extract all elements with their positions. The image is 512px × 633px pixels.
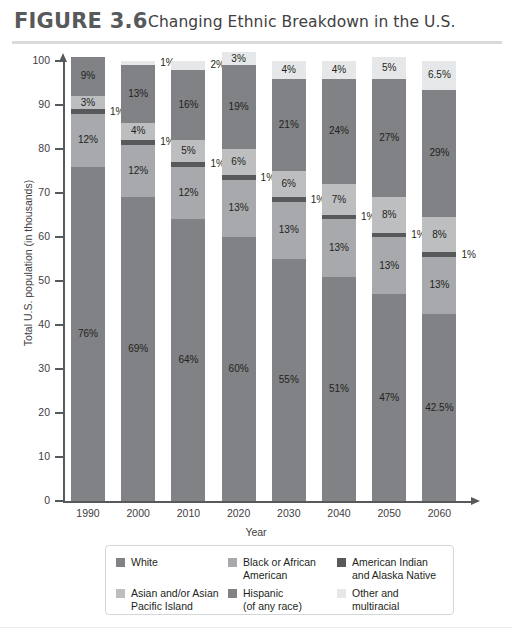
bar-segment-2000-hispanic-of-any-race[interactable]: 13% xyxy=(121,65,155,122)
bar-segment-2000-asian-and-or-asian-pacific-island[interactable]: 4% xyxy=(121,123,155,141)
bar-segment-2060-white[interactable]: 42.5% xyxy=(422,314,456,501)
chart-legend: WhiteBlack or AfricanAmericanAmerican In… xyxy=(105,545,454,615)
bar-segment-2030-other-and-multiracial[interactable]: 4% xyxy=(272,61,306,79)
bar-segment-2020-white[interactable]: 60% xyxy=(222,237,256,501)
bar-segment-2060-black-or-african-american[interactable]: 13% xyxy=(422,257,456,314)
bar-segment-2050-american-indian-and-alaska-native[interactable]: 1% xyxy=(372,233,406,237)
legend-swatch-icon xyxy=(337,558,346,567)
bar-segment-1990-american-indian-and-alaska-native[interactable]: 1% xyxy=(71,109,105,113)
bar-segment-label: 3% xyxy=(71,98,105,108)
stacked-bar-2030[interactable]: 55%13%1%6%21%4% xyxy=(272,45,306,501)
x-axis-tick-label-2040: 2040 xyxy=(311,507,367,519)
stacked-bar-2040[interactable]: 51%13%1%7%24%4% xyxy=(322,45,356,501)
bar-segment-label: 13% xyxy=(121,89,155,99)
bar-segment-label: 9% xyxy=(71,71,105,81)
y-axis-tick xyxy=(55,60,63,62)
bar-segment-label: 29% xyxy=(422,148,456,158)
x-axis-tick-label-1990: 1990 xyxy=(60,507,116,519)
page-bottom-divider xyxy=(0,627,512,628)
bar-segment-2040-hispanic-of-any-race[interactable]: 24% xyxy=(322,79,356,185)
bar-segment-label: 24% xyxy=(322,126,356,136)
bar-segment-2010-black-or-african-american[interactable]: 12% xyxy=(171,167,205,220)
bar-segment-2030-hispanic-of-any-race[interactable]: 21% xyxy=(272,79,306,171)
bar-segment-1990-white[interactable]: 76% xyxy=(71,167,105,501)
bar-segment-2030-black-or-african-american[interactable]: 13% xyxy=(272,202,306,259)
stacked-bar-2000[interactable]: 69%12%1%4%13%1% xyxy=(121,45,155,501)
legend-swatch-icon xyxy=(116,589,125,598)
bar-segment-2040-american-indian-and-alaska-native[interactable]: 1% xyxy=(322,215,356,219)
bar-segment-2050-black-or-african-american[interactable]: 13% xyxy=(372,237,406,294)
y-axis-tick xyxy=(55,368,63,370)
x-axis-arrow-icon xyxy=(471,497,480,505)
bar-segment-label: 76% xyxy=(71,329,105,339)
legend-swatch-icon xyxy=(337,589,346,598)
bar-segment-label: 51% xyxy=(322,384,356,394)
y-axis-tick xyxy=(55,324,63,326)
y-axis-title: Total U.S. population (in thousands) xyxy=(22,53,34,473)
y-axis-tick xyxy=(55,456,63,458)
y-axis-line xyxy=(63,61,65,503)
legend-item-label: White xyxy=(131,556,241,569)
bar-segment-2040-black-or-african-american[interactable]: 13% xyxy=(322,219,356,276)
bar-segment-2050-hispanic-of-any-race[interactable]: 27% xyxy=(372,79,406,198)
bar-segment-2010-other-and-multiracial[interactable]: 2% xyxy=(171,61,205,70)
y-axis-tick xyxy=(55,192,63,194)
x-axis-tick-label-2050: 2050 xyxy=(361,507,417,519)
bar-segment-2040-asian-and-or-asian-pacific-island[interactable]: 7% xyxy=(322,184,356,215)
bar-segment-2020-hispanic-of-any-race[interactable]: 19% xyxy=(222,65,256,149)
bar-segment-2020-asian-and-or-asian-pacific-island[interactable]: 6% xyxy=(222,149,256,175)
bar-segment-2000-black-or-african-american[interactable]: 12% xyxy=(121,145,155,198)
bar-segment-label: 16% xyxy=(171,100,205,110)
stacked-bar-2060[interactable]: 42.5%13%1%8%29%6.5% xyxy=(422,45,456,501)
bar-segment-1990-black-or-african-american[interactable]: 12% xyxy=(71,114,105,167)
x-axis-tick-label-2020: 2020 xyxy=(211,507,267,519)
bar-segment-2010-american-indian-and-alaska-native[interactable]: 1% xyxy=(171,162,205,166)
bar-segment-2040-other-and-multiracial[interactable]: 4% xyxy=(322,61,356,79)
figure-header: FIGURE 3.6 Changing Ethnic Breakdown in … xyxy=(0,0,512,45)
y-axis-tick xyxy=(55,280,63,282)
y-axis-tick xyxy=(55,148,63,150)
bar-segment-2060-other-and-multiracial[interactable]: 6.5% xyxy=(422,61,456,90)
bar-segment-2030-american-indian-and-alaska-native[interactable]: 1% xyxy=(272,197,306,201)
bar-segment-2050-other-and-multiracial[interactable]: 5% xyxy=(372,57,406,79)
bar-segment-label: 8% xyxy=(372,210,406,220)
bar-segment-label: 42.5% xyxy=(422,403,456,413)
bar-segment-2060-hispanic-of-any-race[interactable]: 29% xyxy=(422,90,456,218)
bar-segment-2010-asian-and-or-asian-pacific-island[interactable]: 5% xyxy=(171,140,205,162)
bar-segment-2020-black-or-african-american[interactable]: 13% xyxy=(222,180,256,237)
bar-segment-label: 12% xyxy=(121,166,155,176)
y-axis-tick xyxy=(55,500,63,502)
bar-segment-2010-white[interactable]: 64% xyxy=(171,219,205,501)
bar-segment-2040-white[interactable]: 51% xyxy=(322,277,356,501)
x-axis-tick-label-2000: 2000 xyxy=(110,507,166,519)
header-divider xyxy=(12,41,502,44)
bar-segment-2020-other-and-multiracial[interactable]: 3% xyxy=(222,52,256,65)
bar-segment-2060-asian-and-or-asian-pacific-island[interactable]: 8% xyxy=(422,217,456,252)
bar-segment-2060-american-indian-and-alaska-native[interactable]: 1% xyxy=(422,252,456,256)
bar-segment-2000-white[interactable]: 69% xyxy=(121,197,155,501)
bar-segment-2030-asian-and-or-asian-pacific-island[interactable]: 6% xyxy=(272,171,306,197)
bar-segment-2010-hispanic-of-any-race[interactable]: 16% xyxy=(171,70,205,140)
y-axis-tick xyxy=(55,104,63,106)
bar-segment-2020-american-indian-and-alaska-native[interactable]: 1% xyxy=(222,175,256,179)
bar-segment-label: 19% xyxy=(222,102,256,112)
bar-segment-2000-american-indian-and-alaska-native[interactable]: 1% xyxy=(121,140,155,144)
bar-segment-label: 13% xyxy=(422,280,456,290)
bar-segment-2050-asian-and-or-asian-pacific-island[interactable]: 8% xyxy=(372,197,406,232)
bar-segment-label: 4% xyxy=(322,65,356,75)
bar-segment-2050-white[interactable]: 47% xyxy=(372,294,406,501)
bar-segment-1990-asian-and-or-asian-pacific-island[interactable]: 3% xyxy=(71,96,105,109)
legend-swatch-icon xyxy=(116,558,125,567)
bar-segment-2030-white[interactable]: 55% xyxy=(272,259,306,501)
legend-item-label: Other andmultiracial xyxy=(352,587,462,612)
chart-container: 0102030405060708090100 Total U.S. popula… xyxy=(0,45,512,545)
bar-segment-label: 13% xyxy=(372,261,406,271)
stacked-bar-2050[interactable]: 47%13%1%8%27%5% xyxy=(372,45,406,501)
bar-segment-2000-other-and-multiracial[interactable]: 1% xyxy=(121,61,155,65)
stacked-bar-2020[interactable]: 60%13%1%6%19%3% xyxy=(222,45,256,501)
bar-segment-label: 6.5% xyxy=(422,70,456,80)
bar-segment-1990-hispanic-of-any-race[interactable]: 9% xyxy=(71,57,105,97)
stacked-bar-1990[interactable]: 76%12%1%3%9% xyxy=(71,45,105,501)
bar-segment-callout: 1% xyxy=(461,249,475,260)
stacked-bar-2010[interactable]: 64%12%1%5%16%2% xyxy=(171,45,205,501)
